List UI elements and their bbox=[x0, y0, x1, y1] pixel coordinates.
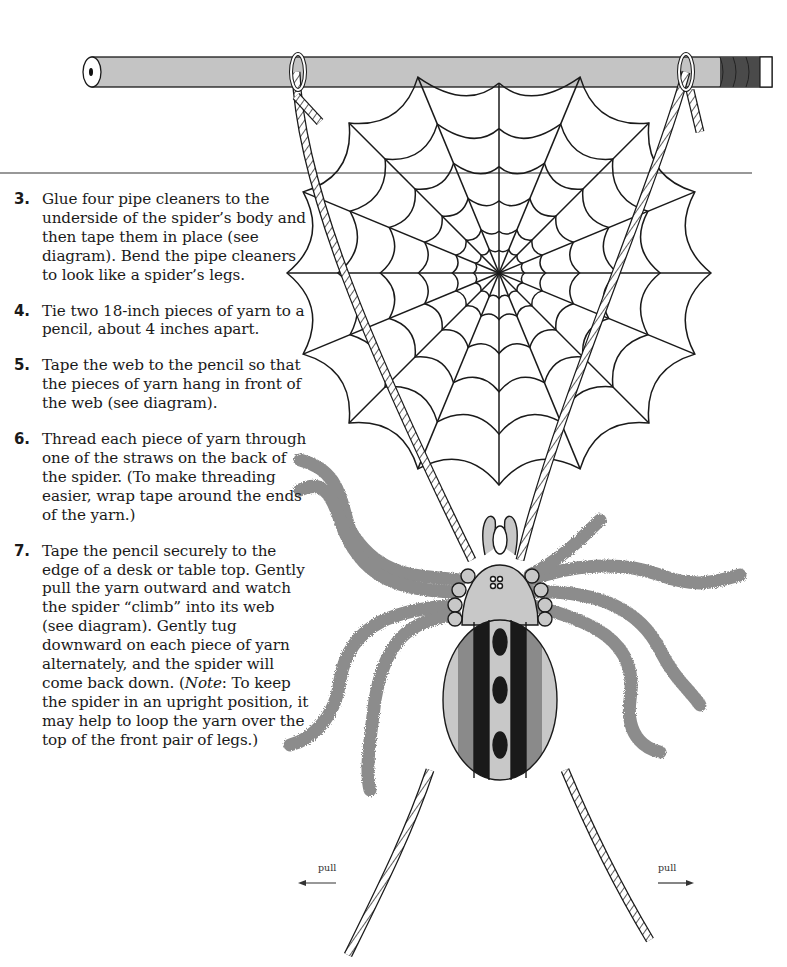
step-number: 3. bbox=[14, 190, 30, 209]
step-number: 6. bbox=[14, 430, 30, 449]
step-5: 5. Tape the web to the pencil so that th… bbox=[0, 356, 310, 413]
yarn-left bbox=[291, 54, 472, 955]
step-text: Tape the pencil securely to the edge of … bbox=[42, 542, 308, 749]
step-number: 4. bbox=[14, 302, 30, 321]
pull-right-label: pull bbox=[658, 862, 676, 873]
pull-left-label: pull bbox=[318, 862, 336, 873]
step-number: 5. bbox=[14, 356, 30, 375]
spider-body bbox=[440, 516, 560, 785]
step-7: 7. Tape the pencil securely to the edge … bbox=[0, 542, 310, 750]
step-text-part: Tape the pencil securely to the edge of … bbox=[42, 542, 305, 692]
pull-right-arrow-icon bbox=[658, 880, 694, 886]
pull-left-arrow-icon bbox=[298, 880, 336, 886]
yarn-right bbox=[520, 54, 700, 940]
step-3: 3. Glue four pipe cleaners to the unders… bbox=[0, 190, 310, 285]
step-number: 7. bbox=[14, 542, 30, 561]
note-label: Note bbox=[185, 674, 222, 692]
instruction-steps: 3. Glue four pipe cleaners to the unders… bbox=[0, 190, 310, 767]
step-text: Thread each piece of yarn through one of… bbox=[42, 430, 306, 524]
step-text: Tie two 18-inch pieces of yarn to a penc… bbox=[42, 302, 305, 339]
step-4: 4. Tie two 18-inch pieces of yarn to a p… bbox=[0, 302, 310, 340]
step-text: Tape the web to the pencil so that the p… bbox=[42, 356, 301, 412]
step-6: 6. Thread each piece of yarn through one… bbox=[0, 430, 310, 525]
step-text: Glue four pipe cleaners to the underside… bbox=[42, 190, 306, 284]
